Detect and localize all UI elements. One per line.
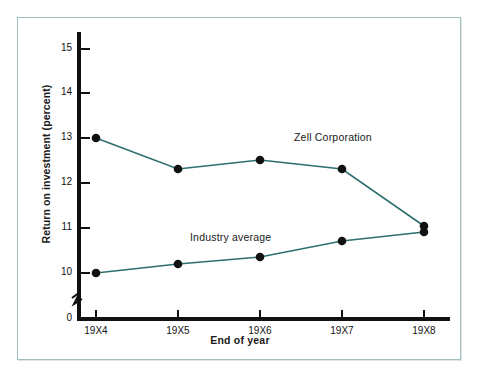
y-tick-label-15: 15 xyxy=(44,42,72,53)
data-point-zell-19X6 xyxy=(256,156,265,165)
chart-canvas xyxy=(18,18,462,361)
data-point-zell-19X4 xyxy=(92,134,101,143)
plot-area: 15 14 13 12 11 10 0 19X4 19X5 19X6 19X7 … xyxy=(18,18,462,361)
y-tick-label-0: 0 xyxy=(44,312,72,323)
data-point-industry-19X7 xyxy=(338,237,347,246)
x-axis-title: End of year xyxy=(18,334,462,346)
series-annotation-industry-average: Industry average xyxy=(190,231,271,243)
chart-frame: 15 14 13 12 11 10 0 19X4 19X5 19X6 19X7 … xyxy=(17,17,461,360)
data-point-industry-19X5 xyxy=(174,260,183,269)
data-point-industry-19X6 xyxy=(256,253,265,262)
y-axis-title: Return on investment (percent) xyxy=(40,64,52,264)
chart-figure: 15 14 13 12 11 10 0 19X4 19X5 19X6 19X7 … xyxy=(0,0,488,387)
series-annotation-zell-corporation: Zell Corporation xyxy=(294,131,372,143)
data-point-zell-19X5 xyxy=(174,165,183,174)
data-point-industry-19X8 xyxy=(420,228,429,237)
series-line-zell-corporation xyxy=(96,138,424,226)
data-point-zell-19X7 xyxy=(338,165,347,174)
data-point-industry-19X4 xyxy=(92,269,101,278)
y-tick-label-10: 10 xyxy=(44,266,72,277)
